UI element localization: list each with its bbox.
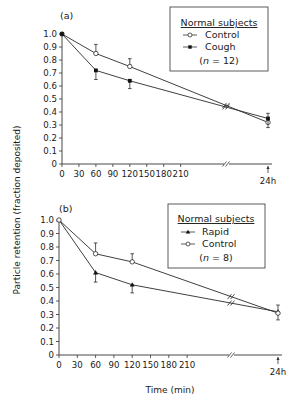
y-tick-label: 0.7	[40, 256, 54, 266]
legend-b-n: (n = 8)	[199, 252, 233, 263]
filled-square-marker-icon	[60, 32, 64, 36]
open-circle-marker-icon	[186, 242, 190, 246]
y-tick-label: 0.3	[40, 310, 54, 320]
x-tick-label: 180	[155, 169, 171, 179]
figure: Particle retention (fraction deposited) …	[0, 0, 298, 408]
y-tick-label: 0.2	[43, 133, 57, 143]
y-tick-label: 1.0	[43, 29, 57, 39]
panel-b-label: (b)	[59, 203, 72, 214]
y-tick-label: 0.6	[40, 269, 54, 279]
y-tick-label: 0.5	[40, 283, 54, 293]
open-circle-marker-icon	[188, 33, 192, 37]
y-tick-label: 0	[52, 159, 57, 169]
y-tick-label: 0.2	[40, 323, 54, 333]
y-tick-label: 0.9	[43, 42, 57, 52]
chart-canvas: Particle retention (fraction deposited) …	[0, 0, 298, 408]
open-circle-marker-icon	[94, 51, 98, 55]
y-tick-label: 0	[49, 350, 54, 360]
x-tick-label: 150	[139, 169, 155, 179]
x-tick-label: 90	[107, 169, 118, 179]
legend-b-title: Normal subjects	[178, 213, 255, 224]
open-circle-marker-icon	[130, 260, 134, 264]
x-tick-label: 60	[90, 360, 101, 370]
x-axis-title: Time (min)	[145, 385, 195, 395]
x-tick-label: 24h	[270, 367, 286, 377]
y-tick-label: 0.5	[43, 94, 57, 104]
y-tick-label: 0.3	[43, 120, 57, 130]
x-tick-label: 30	[73, 169, 84, 179]
x-tick-label: 210	[179, 360, 195, 370]
y-tick-label: 0.4	[40, 296, 54, 306]
arrow-up-icon	[276, 357, 279, 360]
y-tick-label: 0.4	[43, 107, 57, 117]
legend-a-title: Normal subjects	[181, 17, 258, 28]
y-tick-label: 0.9	[40, 229, 54, 239]
open-circle-marker-icon	[93, 252, 97, 256]
open-circle-marker-icon	[128, 64, 132, 68]
y-tick-label: 0.8	[43, 55, 57, 65]
filled-square-marker-icon	[188, 45, 191, 48]
legend-a: Normal subjects Control Cough (n = 12)	[170, 7, 268, 71]
legend-a-item-control: Control	[205, 29, 239, 40]
x-tick-label: 150	[142, 360, 158, 370]
x-tick-label: 60	[90, 169, 101, 179]
legend-b-item-control: Control	[202, 238, 236, 249]
y-tick-label: 0.1	[43, 146, 57, 156]
legend-b: Normal subjects Rapid Control (n = 8)	[168, 204, 265, 268]
x-tick-label: 180	[161, 360, 177, 370]
x-tick-label: 0	[59, 169, 64, 179]
legend-a-item-cough: Cough	[205, 41, 236, 52]
x-tick-label: 120	[124, 360, 140, 370]
y-tick-label: 0.8	[40, 242, 54, 252]
arrow-up-icon	[266, 166, 269, 169]
y-tick-label: 1.0	[40, 215, 54, 225]
filled-square-marker-icon	[128, 79, 132, 83]
x-tick-label: 210	[172, 169, 188, 179]
open-circle-marker-icon	[276, 311, 280, 315]
legend-a-n: (n = 12)	[199, 55, 239, 66]
x-tick-label: 0	[56, 360, 61, 370]
legend-b-item-rapid: Rapid	[202, 226, 229, 237]
filled-square-marker-icon	[266, 117, 270, 121]
x-tick-label: 120	[122, 169, 138, 179]
filled-square-marker-icon	[94, 69, 98, 73]
x-tick-label: 24h	[260, 176, 276, 186]
panel-a-label: (a)	[60, 10, 73, 21]
y-tick-label: 0.7	[43, 68, 57, 78]
x-tick-label: 30	[72, 360, 83, 370]
open-circle-marker-icon	[57, 218, 61, 222]
x-tick-label: 90	[108, 360, 119, 370]
y-tick-label: 0.6	[43, 81, 57, 91]
y-axis-title: Particle retention (fraction deposited)	[12, 126, 22, 295]
y-tick-label: 0.1	[40, 337, 54, 347]
